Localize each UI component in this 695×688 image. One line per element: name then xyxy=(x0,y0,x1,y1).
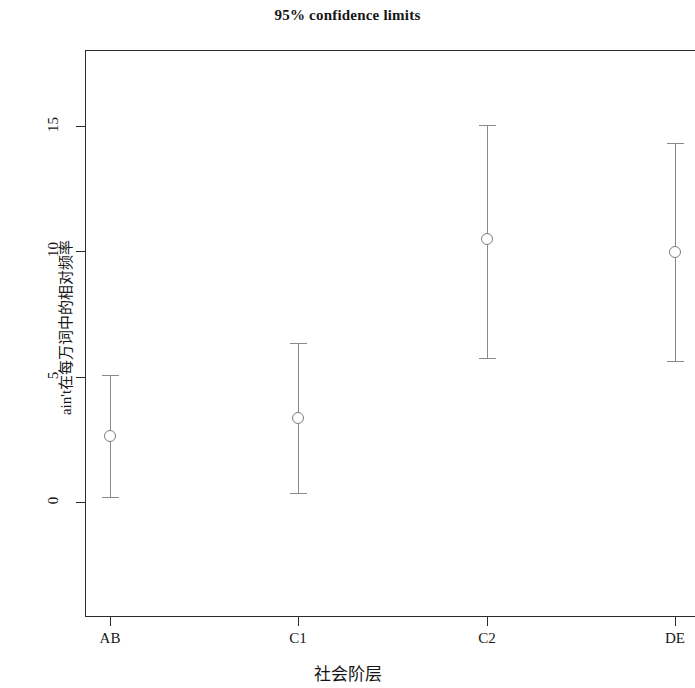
confidence-limits-chart: 95% confidence limits 0 5 10 15 ain't在每万… xyxy=(0,0,695,688)
y-tick-mark-15 xyxy=(76,126,85,127)
y-tick-label-5: 5 xyxy=(45,358,62,392)
y-tick-mark-10 xyxy=(76,251,85,252)
x-tick-mark-c1 xyxy=(298,617,299,626)
x-tick-label-c1: C1 xyxy=(268,630,328,647)
x-tick-label-de: DE xyxy=(645,630,695,647)
x-axis-title: 社会阶层 xyxy=(0,660,695,685)
plot-frame xyxy=(85,50,695,617)
x-tick-label-c2: C2 xyxy=(457,630,517,647)
chart-title: 95% confidence limits xyxy=(0,7,695,24)
y-axis-title: ain't在每万词中的相对频率 xyxy=(54,138,75,518)
y-tick-label-0: 0 xyxy=(45,484,62,518)
x-tick-mark-de xyxy=(675,617,676,626)
y-tick-mark-5 xyxy=(76,377,85,378)
x-tick-mark-c2 xyxy=(487,617,488,626)
x-tick-label-ab: AB xyxy=(80,630,140,647)
y-tick-label-15: 15 xyxy=(45,108,62,142)
y-tick-mark-0 xyxy=(76,502,85,503)
y-tick-label-10: 10 xyxy=(45,233,62,267)
x-tick-mark-ab xyxy=(110,617,111,626)
